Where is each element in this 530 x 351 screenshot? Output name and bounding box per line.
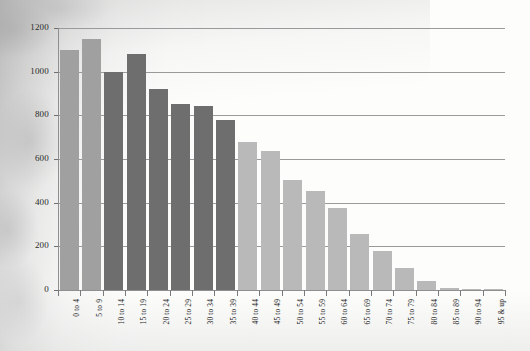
x-axis-tick <box>483 290 484 296</box>
y-axis-tick-label: 400 <box>0 197 49 207</box>
x-axis-tick-label: 20 to 24 <box>162 299 171 324</box>
x-axis-tick-label: 80 to 84 <box>430 299 439 324</box>
bar <box>328 208 347 290</box>
bar <box>127 54 146 290</box>
x-axis-tick-label: 25 to 29 <box>184 299 193 324</box>
bar-chart: 020040060080010001200 0 to 45 to 910 to … <box>0 0 530 351</box>
x-axis-tick <box>125 290 126 296</box>
bar <box>104 72 123 290</box>
bar-series <box>58 28 505 290</box>
x-axis-tick <box>304 290 305 296</box>
x-axis-tick <box>192 290 193 296</box>
bar <box>261 151 280 290</box>
x-axis-tick <box>371 290 372 296</box>
x-axis-tick <box>58 290 59 296</box>
x-axis-tick <box>214 290 215 296</box>
x-axis-tick-label: 40 to 44 <box>251 299 260 324</box>
x-axis-tick-label: 95 & up <box>497 299 506 324</box>
bar <box>417 281 436 290</box>
bar <box>171 104 190 290</box>
x-axis-tick <box>80 290 81 296</box>
bar <box>350 234 369 290</box>
bar <box>60 50 79 290</box>
x-axis-tick <box>505 290 506 296</box>
y-axis-tick-label: 800 <box>0 109 49 119</box>
x-axis-tick <box>170 290 171 296</box>
x-axis-tick-label: 90 to 94 <box>474 299 483 324</box>
y-axis-tick-label: 0 <box>0 284 49 294</box>
x-axis-tick-label: 5 to 9 <box>95 299 104 317</box>
x-axis-tick <box>147 290 148 296</box>
x-axis-tick-label: 55 to 59 <box>318 299 327 324</box>
x-axis-tick-label: 45 to 49 <box>273 299 282 324</box>
x-axis-tick-label: 50 to 54 <box>296 299 305 324</box>
x-axis-tick <box>438 290 439 296</box>
x-axis-tick-label: 15 to 19 <box>139 299 148 324</box>
bar <box>149 89 168 290</box>
x-axis-tick <box>259 290 260 296</box>
y-axis-tick-label: 1200 <box>0 22 49 32</box>
x-axis-tick <box>326 290 327 296</box>
x-axis-tick-label: 60 to 64 <box>340 299 349 324</box>
bar <box>395 268 414 290</box>
x-axis-tick-label: 65 to 69 <box>363 299 372 324</box>
bar <box>194 106 213 290</box>
x-axis-tick-label: 30 to 34 <box>206 299 215 324</box>
bar <box>373 251 392 290</box>
x-axis-tick <box>237 290 238 296</box>
bar <box>283 180 302 290</box>
y-axis-tick-label: 200 <box>0 240 49 250</box>
x-axis-tick <box>416 290 417 296</box>
x-axis-tick-label: 85 to 89 <box>452 299 461 324</box>
bar <box>306 191 325 290</box>
x-axis-tick <box>393 290 394 296</box>
bar <box>216 120 235 290</box>
x-axis-tick-label: 10 to 14 <box>117 299 126 324</box>
x-axis-tick-label: 70 to 74 <box>385 299 394 324</box>
x-axis-tick <box>282 290 283 296</box>
x-axis-ticks <box>58 290 505 298</box>
x-axis-tick <box>460 290 461 296</box>
x-axis-tick <box>349 290 350 296</box>
y-axis-tick-label: 600 <box>0 153 49 163</box>
scanned-page: 020040060080010001200 0 to 45 to 910 to … <box>0 0 530 351</box>
x-axis-tick <box>103 290 104 296</box>
x-axis-tick-label: 0 to 4 <box>72 299 81 317</box>
x-axis-tick-label: 75 to 79 <box>407 299 416 324</box>
x-axis-labels: 0 to 45 to 910 to 1415 to 1920 to 2425 t… <box>58 299 505 351</box>
bar <box>82 39 101 290</box>
bar <box>238 142 257 290</box>
x-axis-tick-label: 35 to 39 <box>229 299 238 324</box>
y-axis-tick-label: 1000 <box>0 66 49 76</box>
